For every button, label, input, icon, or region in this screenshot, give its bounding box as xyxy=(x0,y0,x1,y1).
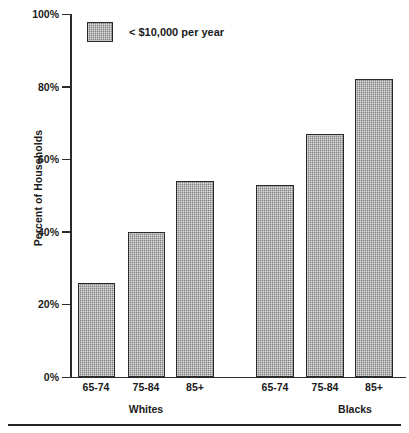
y-tick-label-80: 80% xyxy=(0,82,59,93)
bar-blacks-75-84 xyxy=(306,134,344,377)
y-tick-label-40: 40% xyxy=(0,227,59,238)
group-label-whites: Whites xyxy=(91,404,201,415)
x-label-whites-85-plus: 85+ xyxy=(155,382,235,393)
plot-area xyxy=(70,14,405,377)
bottom-rule-divider xyxy=(8,424,401,426)
legend: < $10,000 per year xyxy=(87,22,224,42)
y-tick-label-0: 0% xyxy=(0,372,59,383)
bar-chart-figure: Percent of Households 100% 80% 60% 40% 2… xyxy=(0,0,409,433)
group-label-blacks: Blacks xyxy=(300,404,409,415)
y-tick-label-60: 60% xyxy=(0,154,59,165)
x-label-blacks-85-plus: 85+ xyxy=(334,382,409,393)
y-tick-label-100: 100% xyxy=(0,9,59,20)
bar-whites-85-plus xyxy=(176,181,214,377)
y-tick-label-20: 20% xyxy=(0,299,59,310)
bar-whites-65-74 xyxy=(78,283,115,377)
legend-swatch-income xyxy=(87,22,113,42)
bar-whites-75-84 xyxy=(128,232,165,377)
bar-blacks-85-plus xyxy=(355,79,393,377)
y-axis-title: Percent of Households xyxy=(32,88,44,288)
bar-blacks-65-74 xyxy=(256,185,294,377)
legend-label-income: < $10,000 per year xyxy=(129,26,224,38)
